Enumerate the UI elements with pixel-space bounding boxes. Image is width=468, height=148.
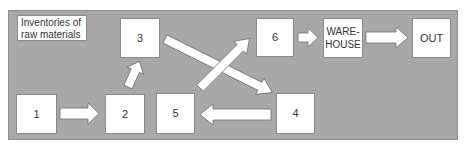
- station-4-box: 4: [276, 93, 315, 134]
- station-6-box: 6: [256, 18, 294, 57]
- station-6-label: 6: [272, 31, 278, 44]
- station-4-label: 4: [292, 107, 298, 120]
- station-5-box: 5: [156, 93, 195, 134]
- warehouse-box: WARE- HOUSE: [323, 18, 363, 58]
- raw-materials-label: Inventories of raw materials: [17, 15, 87, 41]
- out-box: OUT: [412, 18, 451, 58]
- out-label: OUT: [420, 32, 443, 45]
- station-2-label: 2: [122, 108, 128, 121]
- station-3-label: 3: [137, 32, 143, 45]
- warehouse-label: WARE- HOUSE: [325, 25, 361, 51]
- station-2-box: 2: [105, 94, 145, 134]
- station-1-label: 1: [33, 108, 39, 121]
- station-3-box: 3: [120, 18, 160, 58]
- station-1-box: 1: [16, 94, 57, 134]
- station-5-label: 5: [172, 107, 178, 120]
